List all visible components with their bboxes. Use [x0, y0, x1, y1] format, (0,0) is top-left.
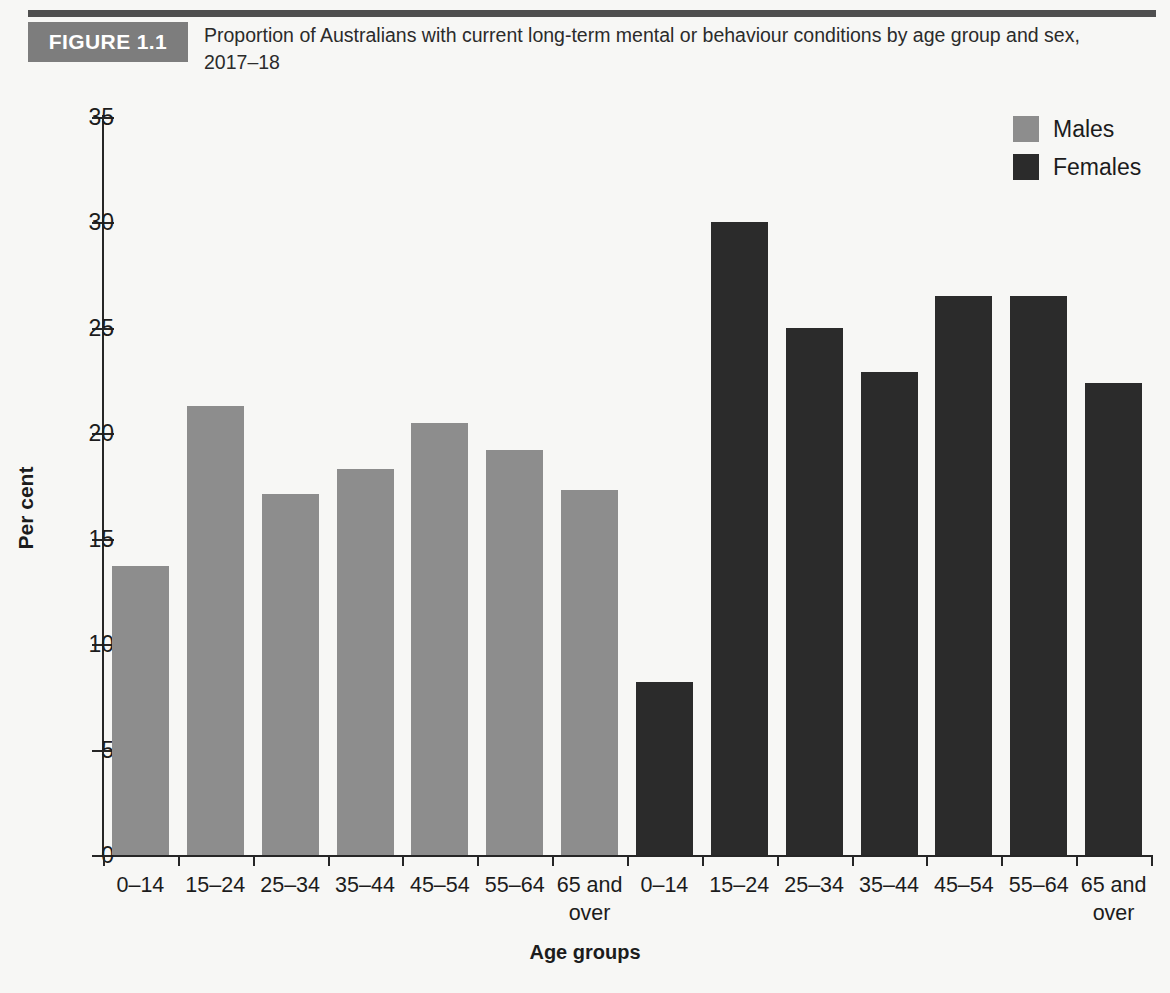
- x-tick-label: 65 andover: [552, 871, 627, 927]
- x-tick-mark: [926, 855, 928, 866]
- bar: [1085, 383, 1142, 855]
- x-tick-label: 35–44: [328, 871, 403, 899]
- x-tick-label-line1: 0–14: [627, 871, 702, 899]
- bar: [187, 406, 244, 855]
- x-tick-label-line1: 55–64: [1001, 871, 1076, 899]
- x-tick-mark: [777, 855, 779, 866]
- y-axis-title: Per cent: [14, 438, 38, 578]
- y-tick-label: 15: [70, 526, 114, 553]
- x-tick-label: 0–14: [627, 871, 702, 899]
- x-tick-label-line1: 35–44: [328, 871, 403, 899]
- x-axis-title: Age groups: [0, 941, 1170, 964]
- x-tick-mark: [627, 855, 629, 866]
- x-tick-mark: [402, 855, 404, 866]
- bar: [861, 372, 918, 855]
- x-tick-label: 25–34: [253, 871, 328, 899]
- y-tick-label: 0: [70, 842, 114, 869]
- y-tick-label: 25: [70, 315, 114, 342]
- legend-item: Males: [1013, 110, 1163, 148]
- figure-number-badge: FIGURE 1.1: [28, 22, 188, 62]
- x-tick-mark: [253, 855, 255, 866]
- x-tick-label-line1: 0–14: [103, 871, 178, 899]
- x-tick-label: 0–14: [103, 871, 178, 899]
- x-tick-label-line1: 55–64: [477, 871, 552, 899]
- chart-plot-area: 05101520253035 Per cent 0–1415–2425–3435…: [0, 96, 1170, 993]
- bar: [561, 490, 618, 855]
- y-tick-label: 20: [70, 420, 114, 447]
- x-tick-label-line2: over: [552, 899, 627, 927]
- chart-legend: MalesFemales: [1013, 110, 1163, 186]
- x-tick-mark: [702, 855, 704, 866]
- x-tick-label-line1: 65 and: [1076, 871, 1151, 899]
- x-tick-mark: [1151, 855, 1153, 866]
- x-tick-label: 15–24: [702, 871, 777, 899]
- bar: [711, 222, 768, 855]
- x-tick-mark: [178, 855, 180, 866]
- figure-header: FIGURE 1.1 Proportion of Australians wit…: [0, 0, 1170, 96]
- x-tick-label-line1: 45–54: [926, 871, 1001, 899]
- legend-swatch-icon: [1013, 116, 1039, 142]
- x-tick-label-line2: over: [1076, 899, 1151, 927]
- bar: [1010, 296, 1067, 855]
- x-tick-label: 15–24: [178, 871, 253, 899]
- x-tick-label: 45–54: [926, 871, 1001, 899]
- x-tick-label-line1: 45–54: [402, 871, 477, 899]
- bar: [262, 494, 319, 855]
- legend-label: Males: [1053, 116, 1114, 143]
- x-tick-mark: [477, 855, 479, 866]
- x-tick-label-line1: 25–34: [253, 871, 328, 899]
- y-tick-label: 5: [70, 737, 114, 764]
- x-tick-label-line1: 15–24: [702, 871, 777, 899]
- y-tick-label: 30: [70, 209, 114, 236]
- header-divider-rule: [28, 10, 1156, 17]
- x-tick-mark: [1001, 855, 1003, 866]
- bar: [112, 566, 169, 855]
- legend-swatch-icon: [1013, 154, 1039, 180]
- figure-caption: Proportion of Australians with current l…: [204, 22, 1104, 76]
- x-tick-mark: [1076, 855, 1078, 866]
- x-tick-mark: [103, 855, 105, 866]
- bar: [411, 423, 468, 855]
- x-tick-label-line1: 15–24: [178, 871, 253, 899]
- bar: [486, 450, 543, 855]
- y-tick-label: 35: [70, 104, 114, 131]
- legend-label: Females: [1053, 154, 1141, 181]
- bar: [337, 469, 394, 855]
- x-tick-label: 45–54: [402, 871, 477, 899]
- x-tick-mark: [328, 855, 330, 866]
- x-tick-mark: [552, 855, 554, 866]
- x-tick-label: 65 andover: [1076, 871, 1151, 927]
- x-tick-label: 55–64: [477, 871, 552, 899]
- y-tick-label: 10: [70, 631, 114, 658]
- x-tick-label: 35–44: [852, 871, 927, 899]
- x-tick-label-line1: 65 and: [552, 871, 627, 899]
- x-tick-label-line1: 35–44: [852, 871, 927, 899]
- x-tick-label-line1: 25–34: [777, 871, 852, 899]
- bar: [636, 682, 693, 855]
- x-tick-label: 55–64: [1001, 871, 1076, 899]
- x-tick-mark: [852, 855, 854, 866]
- bar: [786, 328, 843, 855]
- x-tick-label: 25–34: [777, 871, 852, 899]
- legend-item: Females: [1013, 148, 1163, 186]
- bar: [935, 296, 992, 855]
